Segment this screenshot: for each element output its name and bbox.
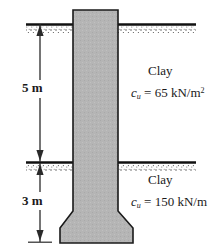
engineering-diagram-drilled-shaft: 5 m 3 m Clay cu = 65 kN/m2 Clay cu = 150… (0, 0, 216, 246)
cohesion-value-lower: 150 (155, 194, 175, 209)
cohesion-label-upper: cu = 65 kN/m2 (131, 86, 205, 101)
cohesion-units-lower: kN/m (177, 194, 207, 209)
soil-label-upper: Clay (148, 64, 173, 77)
dimension-label-upper: 5 m (22, 81, 43, 94)
cohesion-label-lower: cu = 150 kN/m (131, 195, 207, 210)
drilled-shaft-icon (60, 10, 133, 243)
cohesion-subscript-lower: u (137, 201, 141, 210)
cohesion-value-upper: 65 (155, 85, 168, 100)
dimension-label-lower: 3 m (22, 194, 43, 207)
cohesion-units-upper: kN/m (171, 85, 201, 100)
soil-label-lower: Clay (148, 173, 173, 186)
cohesion-units-exponent-upper: 2 (201, 86, 205, 95)
equals-sign-upper: = (144, 85, 151, 100)
equals-sign-lower: = (144, 194, 151, 209)
cohesion-subscript-upper: u (137, 92, 141, 101)
